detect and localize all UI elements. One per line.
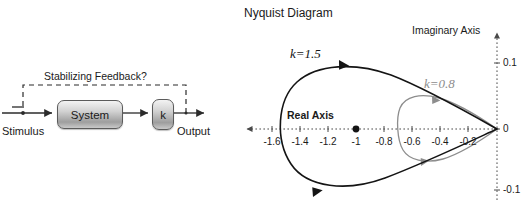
xtick-label-1: -1.4 <box>291 137 308 147</box>
xtick-label-0: -1.6 <box>263 137 280 147</box>
gain-block[interactable]: k <box>152 99 174 130</box>
real-axis-label: Real Axis <box>287 110 334 121</box>
ytick-label-0: 0.1 <box>503 58 517 68</box>
page-title: Nyquist Diagram <box>244 7 333 19</box>
xtick-label-4: -0.8 <box>375 137 392 147</box>
nyquist-figure: Stabilizing Feedback? Stimulus Output Sy… <box>0 0 529 217</box>
critical-point-marker <box>353 126 360 133</box>
k-low-annotation: k=0.8 <box>424 77 455 90</box>
stimulus-label: Stimulus <box>2 126 44 137</box>
system-block[interactable]: System <box>57 100 123 129</box>
summing-junction <box>12 107 25 115</box>
k-high-annotation: k=1.5 <box>290 47 321 60</box>
imaginary-axis-label: Imaginary Axis <box>412 25 480 36</box>
xtick-label-6: -0.4 <box>431 137 448 147</box>
gain-block-label: k <box>160 109 166 121</box>
nyquist-plot-graphics <box>235 0 529 217</box>
real-axis <box>247 126 497 132</box>
system-block-label: System <box>71 109 109 121</box>
output-tap-node <box>185 112 188 115</box>
xtick-label-8: 0 <box>503 124 509 134</box>
feedback-caption: Stabilizing Feedback? <box>44 71 147 82</box>
imaginary-axis <box>494 33 500 200</box>
real-axis-ticks <box>272 126 468 132</box>
nyquist-plot-panel: Nyquist Diagram Imaginary Axis Real Axis… <box>235 0 529 217</box>
output-label: Output <box>177 126 210 137</box>
xtick-label-2: -1.2 <box>319 137 336 147</box>
block-diagram-panel: Stabilizing Feedback? Stimulus Output Sy… <box>0 0 235 217</box>
k-high-arrow-upper <box>337 60 349 71</box>
k-high-arrow-lower <box>311 185 324 197</box>
xtick-label-3: -1 <box>352 137 361 147</box>
xtick-label-7: -0.2 <box>459 137 476 147</box>
ytick-label-2: -0.1 <box>503 185 520 195</box>
xtick-label-5: -0.6 <box>403 137 420 147</box>
nyquist-curve-k-low <box>398 96 497 166</box>
